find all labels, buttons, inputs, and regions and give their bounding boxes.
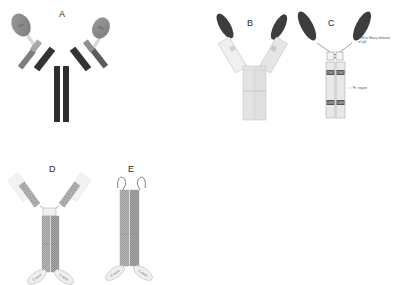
- antibody-structure-figure: A LEL LEC: [0, 0, 395, 285]
- panel-c-tip-annotation: VHH or Heavy domains of IgG: [358, 37, 392, 45]
- panel-b-stem-right: [255, 66, 266, 120]
- panel-a-ellipse-right: LEC: [89, 14, 113, 41]
- panel-b-tip-left: [213, 11, 237, 41]
- panel-b-letter: B: [247, 18, 253, 28]
- panel-a-heavy-arm-right: [70, 47, 92, 72]
- panel-e-letter: E: [128, 164, 134, 174]
- panel-c-letter: C: [328, 18, 335, 28]
- panel-e: E C-term: [95, 150, 205, 285]
- panel-a-light-chain-left: [18, 48, 36, 69]
- panel-e-graphic: C-term C-term: [95, 150, 205, 285]
- panel-d-hinge-box: [43, 208, 56, 216]
- panel-b-stem-left: [243, 66, 254, 120]
- panel-c-domain-ch3-left: CH3: [327, 100, 335, 105]
- panel-c-graphic: CH2 CH2 CH3 CH3: [290, 0, 395, 150]
- panel-c-domain-ch2-right: CH2: [337, 70, 345, 75]
- panel-e-tail-left: [118, 177, 126, 190]
- panel-a-ellipse-left: LEL: [7, 10, 34, 40]
- panel-c-hinge-box-left: [327, 52, 334, 60]
- panel-c-ch3-left-label: CH3: [327, 101, 334, 105]
- panel-e-stem-left: [120, 190, 129, 266]
- panel-d: D: [0, 150, 110, 285]
- panel-e-tail-right: [137, 177, 145, 190]
- panel-b-arm-left: [218, 37, 247, 73]
- panel-c-domain-ch2-left: CH2: [327, 70, 335, 75]
- panel-c-ch2-left-label: CH2: [327, 71, 334, 75]
- panel-e-stem-right: [130, 190, 139, 266]
- panel-a: A LEL LEC: [0, 0, 200, 150]
- panel-a-graphic: LEL LEC: [0, 0, 200, 150]
- panel-d-letter: D: [49, 164, 56, 174]
- panel-a-stem-right: [63, 66, 69, 122]
- panel-c-hinge-right: [340, 43, 352, 52]
- panel-c-ch2-right-label: CH2: [337, 71, 344, 75]
- panel-c: C CH2 CH2: [290, 0, 395, 150]
- panel-c-fc-annotation: Fc region: [353, 86, 367, 90]
- panel-c-hinge-left: [317, 43, 330, 52]
- panel-c-ch3-right-label: CH3: [337, 101, 344, 105]
- panel-c-domain-ch3-right: CH3: [337, 100, 345, 105]
- panel-c-hinge-box-right: [336, 52, 343, 60]
- panel-b-tip-right: [268, 12, 291, 42]
- panel-c-tip-left: [294, 9, 320, 43]
- panel-a-heavy-arm-left: [34, 47, 56, 72]
- panel-a-stem-left: [54, 66, 60, 122]
- panel-a-letter: A: [59, 9, 65, 19]
